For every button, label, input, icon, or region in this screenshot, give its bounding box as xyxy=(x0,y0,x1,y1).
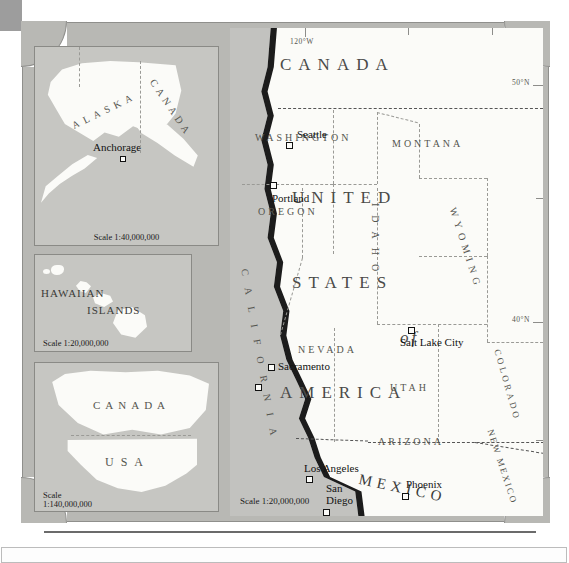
border-wa-id xyxy=(333,110,334,184)
city-label-los-angeles: Los Angeles xyxy=(304,462,359,474)
state-label-nevada: NEVADA xyxy=(298,344,357,355)
inset-scale-na-line2: 1:140,000,000 xyxy=(43,499,92,509)
state-label-oregon: OREGON xyxy=(258,206,318,217)
bottom-divider-bar xyxy=(1,547,567,563)
state-label-utah: UTAH xyxy=(390,382,429,393)
na-inset-label-usa: USA xyxy=(105,455,150,470)
na-inset-label-canada: CANADA xyxy=(93,399,170,411)
city-label-phoenix: Phoenix xyxy=(406,478,442,490)
bottom-horizontal-rule xyxy=(44,531,536,533)
main-map-panel[interactable]: CANADA UNITED STATES of AMERICA MEXICO W… xyxy=(230,28,543,516)
border-ut-az xyxy=(377,324,487,325)
border-or-wa xyxy=(333,184,377,185)
parallel-tick-50n xyxy=(533,85,543,86)
border-wy-east xyxy=(487,178,488,256)
meridian-tick-b xyxy=(408,28,409,35)
map-plate: CANADA UNITED STATES of AMERICA MEXICO W… xyxy=(22,22,549,522)
city-label-san-diego: San Diego xyxy=(326,483,370,506)
parallel-tick-40n xyxy=(533,322,543,323)
meridian-tick-c xyxy=(492,28,493,35)
border-usa-canada xyxy=(278,108,543,109)
border-co-west xyxy=(487,256,488,342)
city-label-salt-lake-city: Salt Lake City xyxy=(400,337,464,349)
inset-city-marker-anchorage[interactable] xyxy=(120,156,126,162)
border-mt-wy xyxy=(419,124,420,178)
border-mt-wy-south xyxy=(419,178,487,179)
state-label-idaho: IDAHO xyxy=(370,203,381,293)
city-marker-san-francisco[interactable] xyxy=(255,384,262,391)
city-label-seattle: Seattle xyxy=(297,128,327,140)
graticule-label-120w: 120°W xyxy=(290,37,314,46)
city-marker-los-angeles[interactable] xyxy=(306,476,313,483)
inset-label-hawaiian: HAWAIIAN xyxy=(41,287,104,299)
border-id-mt-west xyxy=(377,112,378,184)
inset-scale-alaska: Scale 1:40,000,000 xyxy=(35,233,218,242)
country-label-canada: CANADA xyxy=(280,55,395,75)
country-label-america: AMERICA xyxy=(280,383,407,403)
city-label-portland: Portland xyxy=(272,192,309,204)
alaska-inset-border-line-a xyxy=(79,47,80,87)
inset-alaska[interactable]: ALASKA CANADA Anchorage Scale 1:40,000,0… xyxy=(34,46,219,246)
na-border-usa-canada xyxy=(71,435,191,436)
inset-scale-north-america: Scale1:140,000,000 xyxy=(43,491,92,509)
island-niihau xyxy=(43,269,50,274)
graticule-label-40n: 40°N xyxy=(512,315,530,324)
city-marker-portland[interactable] xyxy=(270,182,277,189)
parallel-tick-low xyxy=(536,440,543,441)
inset-city-label-anchorage: Anchorage xyxy=(93,141,141,153)
border-or-ca xyxy=(242,184,333,185)
graticule-label-50n: 50°N xyxy=(512,78,530,87)
border-wy-co xyxy=(419,256,487,257)
state-label-arizona: ARIZONA xyxy=(378,436,444,447)
parallel-tick-mid xyxy=(536,198,543,199)
alaska-inset-border-line-b xyxy=(140,61,141,153)
inset-label-islands: ISLANDS xyxy=(87,304,140,316)
inset-hawaii[interactable]: HAWAIIAN ISLANDS Scale 1:20,000,000 xyxy=(34,254,192,352)
state-label-montana: MONTANA xyxy=(392,138,463,149)
inset-scale-hawaii: Scale 1:20,000,000 xyxy=(43,339,108,348)
city-marker-sacramento[interactable] xyxy=(268,364,275,371)
inset-north-america[interactable]: CANADA USA Scale1:140,000,000 xyxy=(34,362,219,512)
corner-tab-decoration xyxy=(0,0,22,31)
city-marker-phoenix[interactable] xyxy=(402,493,409,500)
meridian-tick-120w xyxy=(305,28,306,37)
city-marker-seattle[interactable] xyxy=(286,142,293,149)
city-marker-salt-lake-city[interactable] xyxy=(408,327,415,334)
city-label-sacramento: Sacramento xyxy=(278,360,330,372)
border-co-nm xyxy=(487,342,543,343)
main-map-scale-label: Scale 1:20,000,000 xyxy=(240,496,309,506)
city-marker-san-diego[interactable] xyxy=(323,509,330,516)
